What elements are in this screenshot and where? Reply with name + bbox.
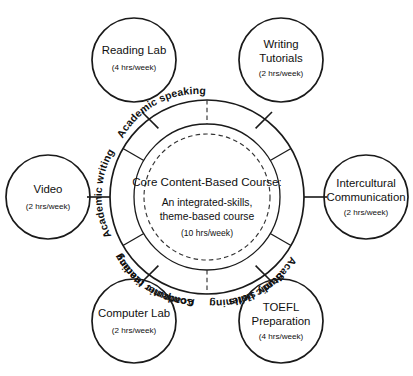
satellite-toefl-preparation: TOEFL Preparation (4 hrs/week) [239, 279, 323, 363]
satellite-title-line-1: Writing [263, 38, 298, 50]
satellite-circle [92, 18, 176, 102]
core-line-1: An integrated-skills, [162, 197, 253, 208]
satellite-title-line-1: TOEFL [263, 301, 300, 313]
core-title: Core Content-Based Course: [132, 175, 282, 188]
satellite-hours: (2 hrs/week) [259, 69, 304, 78]
ring-divider-lower-right [270, 234, 291, 246]
satellite-title-line-2: Communication [326, 191, 405, 203]
satellite-title: Video [34, 183, 63, 195]
satellite-hours: (2 hrs/week) [112, 326, 157, 335]
ring-label-academic-writing: Academic writing [93, 147, 117, 240]
ring-divider-upper-left [123, 149, 144, 161]
core-course-node: Core Content-Based Course: An integrated… [132, 134, 282, 260]
core-line-2: theme-based course [160, 211, 255, 222]
satellite-title-line-1: Intercultural [336, 177, 396, 189]
satellite-title: Computer Lab [98, 307, 170, 319]
satellite-intercultural-communication: Intercultural Communication (2 hrs/week) [324, 155, 408, 239]
satellite-writing-tutorials: Writing Tutorials (2 hrs/week) [239, 18, 323, 102]
satellite-title-line-2: Tutorials [259, 52, 303, 64]
satellite-hours: (2 hrs/week) [26, 202, 71, 211]
curriculum-wheel-diagram: Academic reading Academic writing Academ… [0, 0, 413, 376]
satellite-hours: (4 hrs/week) [112, 63, 157, 72]
core-hours: (10 hrs/week) [181, 228, 233, 238]
satellite-title-line-2: Preparation [252, 315, 311, 327]
satellite-circle [92, 279, 176, 363]
diagram-canvas: Academic reading Academic writing Academ… [0, 0, 413, 376]
satellite-computer-lab: Computer Lab (2 hrs/week) [92, 279, 176, 363]
satellite-hours: (2 hrs/week) [344, 208, 389, 217]
satellite-video: Video (2 hrs/week) [6, 155, 90, 239]
satellite-reading-lab: Reading Lab (4 hrs/week) [92, 18, 176, 102]
satellite-hours: (4 hrs/week) [259, 332, 304, 341]
ring-divider-lower-left [123, 234, 144, 246]
satellite-title: Reading Lab [102, 44, 167, 56]
satellite-circle [6, 155, 90, 239]
ring-divider-upper-right [270, 149, 291, 161]
satellite-nodes: Reading Lab (4 hrs/week) Writing Tutoria… [6, 18, 408, 363]
